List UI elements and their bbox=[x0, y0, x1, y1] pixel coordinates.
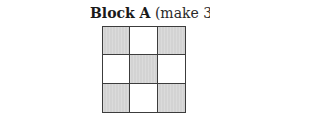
block-cell-r2-c1 bbox=[103, 55, 130, 83]
block-cell-r1-c3 bbox=[158, 27, 185, 55]
block-cell-r3-c1 bbox=[103, 84, 130, 112]
block-cell-r1-c1 bbox=[103, 27, 130, 55]
block-name: Block A bbox=[90, 5, 150, 21]
block-title: Block A (make 34) bbox=[90, 4, 210, 22]
block-quantity-note: (make 34) bbox=[155, 5, 210, 21]
nine-patch-block-diagram bbox=[102, 26, 186, 113]
block-cell-r3-c3 bbox=[158, 84, 185, 112]
block-cell-r1-c2 bbox=[130, 27, 157, 55]
block-cell-r3-c2 bbox=[130, 84, 157, 112]
block-cell-r2-c3 bbox=[158, 55, 185, 83]
block-cell-r2-c2 bbox=[130, 55, 157, 83]
